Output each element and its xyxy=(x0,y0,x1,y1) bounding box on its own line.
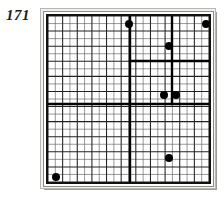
dot-top-right-corner[interactable] xyxy=(202,20,211,29)
figure-caption: 171 xyxy=(0,0,1,1)
grid-lines-svg xyxy=(48,16,209,182)
figure-container: 171 171 xyxy=(0,0,224,198)
figure-number-label: 171 xyxy=(6,8,30,23)
grid-fine-lines xyxy=(48,16,209,182)
grid-surface xyxy=(48,16,209,182)
puzzle-grid-board[interactable] xyxy=(46,14,211,184)
